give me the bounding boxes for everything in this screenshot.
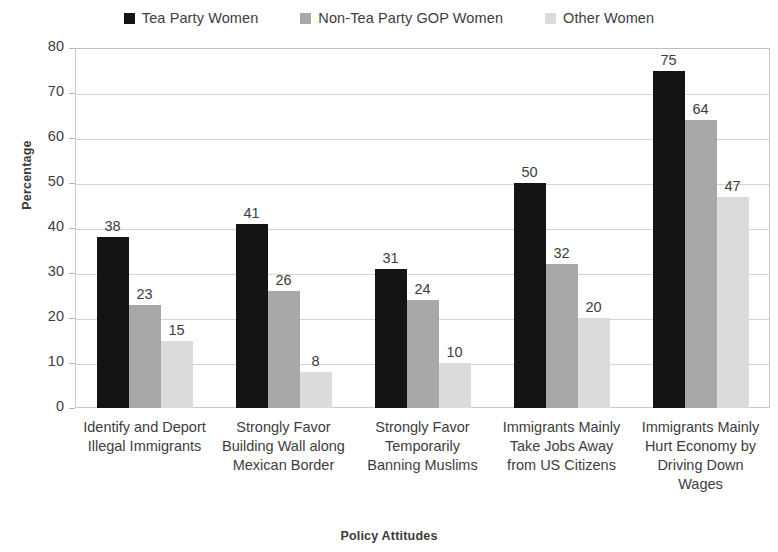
bar-item[interactable]: 31 — [375, 48, 407, 408]
x-axis-category-label-line: Identify and Deport — [77, 418, 212, 437]
bar-value-label: 20 — [585, 299, 601, 315]
x-axis-category-label-line: Illegal Immigrants — [77, 437, 212, 456]
x-axis-category-label-line: Wages — [633, 475, 768, 494]
x-axis-title: Policy Attitudes — [0, 529, 778, 543]
bar-value-label: 31 — [382, 250, 398, 266]
bar-value-label: 38 — [104, 218, 120, 234]
legend-label: Other Women — [563, 10, 654, 26]
bar-value-label: 64 — [692, 101, 708, 117]
x-axis-category-label-line: Immigrants Mainly — [633, 418, 768, 437]
y-axis-tick-label: 40 — [2, 218, 64, 234]
legend-entry[interactable]: Non-Tea Party GOP Women — [300, 10, 503, 26]
x-axis-category-label: Identify and DeportIllegal Immigrants — [75, 418, 214, 494]
y-axis-tick-mark — [69, 408, 75, 409]
legend-swatch-icon — [300, 13, 311, 24]
bar-item[interactable]: 23 — [129, 48, 161, 408]
y-axis-tick-label: 80 — [2, 38, 64, 54]
bar-value-label: 41 — [243, 205, 259, 221]
chart-legend: Tea Party WomenNon-Tea Party GOP WomenOt… — [0, 4, 778, 32]
bar-item[interactable]: 50 — [514, 48, 546, 408]
bar-item[interactable]: 41 — [236, 48, 268, 408]
bar-item[interactable]: 8 — [300, 48, 332, 408]
legend-swatch-icon — [545, 13, 556, 24]
bar-group: 756447 — [631, 48, 770, 408]
y-axis-tick-label: 0 — [2, 398, 64, 414]
bar[interactable] — [375, 269, 407, 409]
legend-label: Tea Party Women — [142, 10, 258, 26]
bar-value-label: 10 — [446, 344, 462, 360]
bar[interactable] — [717, 197, 749, 409]
x-axis-category-label: Strongly FavorTemporarilyBanning Muslims — [353, 418, 492, 494]
bar-value-label: 8 — [311, 353, 319, 369]
bar[interactable] — [439, 363, 471, 408]
x-axis-category-label-line: from US Citizens — [494, 456, 629, 475]
bar-group: 41268 — [214, 48, 353, 408]
bar-value-label: 15 — [168, 322, 184, 338]
bar[interactable] — [129, 305, 161, 409]
bar-item[interactable]: 47 — [717, 48, 749, 408]
y-axis-tick-label: 60 — [2, 128, 64, 144]
bar[interactable] — [653, 71, 685, 409]
x-axis-category-label-line: Mexican Border — [216, 456, 351, 475]
bar-item[interactable]: 38 — [97, 48, 129, 408]
bar-value-label: 24 — [414, 281, 430, 297]
y-axis-tick-label: 70 — [2, 83, 64, 99]
x-axis-category-label-line: Banning Muslims — [355, 456, 490, 475]
y-axis-tick-label: 20 — [2, 308, 64, 324]
bar-item[interactable]: 15 — [161, 48, 193, 408]
x-axis-category-label: Strongly FavorBuilding Wall alongMexican… — [214, 418, 353, 494]
x-axis-category-label-line: Immigrants Mainly — [494, 418, 629, 437]
bar-value-label: 32 — [553, 245, 569, 261]
bar[interactable] — [546, 264, 578, 408]
bar-value-label: 75 — [660, 52, 676, 68]
legend-swatch-icon — [124, 13, 135, 24]
bar[interactable] — [300, 372, 332, 408]
bar-group: 312410 — [353, 48, 492, 408]
bar[interactable] — [514, 183, 546, 408]
bar-item[interactable]: 64 — [685, 48, 717, 408]
bar[interactable] — [578, 318, 610, 408]
bar-series-container: 38231541268312410503220756447 — [75, 48, 770, 408]
bar-value-label: 26 — [275, 272, 291, 288]
bar-item[interactable]: 32 — [546, 48, 578, 408]
bar[interactable] — [685, 120, 717, 408]
bar-value-label: 47 — [724, 178, 740, 194]
x-axis-category-label-line: Strongly Favor — [216, 418, 351, 437]
y-axis-tick-label: 50 — [2, 173, 64, 189]
bar[interactable] — [407, 300, 439, 408]
x-axis-category-label-line: Strongly Favor — [355, 418, 490, 437]
bar-item[interactable]: 26 — [268, 48, 300, 408]
bar-group: 382315 — [75, 48, 214, 408]
legend-entry[interactable]: Tea Party Women — [124, 10, 258, 26]
bar-item[interactable]: 20 — [578, 48, 610, 408]
bar[interactable] — [161, 341, 193, 409]
bar-item[interactable]: 10 — [439, 48, 471, 408]
x-axis-category-labels: Identify and DeportIllegal ImmigrantsStr… — [75, 418, 770, 494]
bar-value-label: 50 — [521, 164, 537, 180]
bar-value-label: 23 — [136, 286, 152, 302]
legend-label: Non-Tea Party GOP Women — [318, 10, 503, 26]
legend-entry[interactable]: Other Women — [545, 10, 654, 26]
x-axis-category-label-line: Take Jobs Away — [494, 437, 629, 456]
y-axis-tick-label: 10 — [2, 353, 64, 369]
bar[interactable] — [236, 224, 268, 409]
bar[interactable] — [97, 237, 129, 408]
y-axis-tick-label: 30 — [2, 263, 64, 279]
bar-item[interactable]: 75 — [653, 48, 685, 408]
x-axis-category-label-line: Building Wall along — [216, 437, 351, 456]
x-axis-category-label: Immigrants MainlyHurt Economy byDriving … — [631, 418, 770, 494]
x-axis-category-label-line: Driving Down — [633, 456, 768, 475]
bar-item[interactable]: 24 — [407, 48, 439, 408]
bar-group: 503220 — [492, 48, 631, 408]
bar[interactable] — [268, 291, 300, 408]
x-axis-category-label-line: Hurt Economy by — [633, 437, 768, 456]
x-axis-category-label-line: Temporarily — [355, 437, 490, 456]
x-axis-category-label: Immigrants MainlyTake Jobs Awayfrom US C… — [492, 418, 631, 494]
